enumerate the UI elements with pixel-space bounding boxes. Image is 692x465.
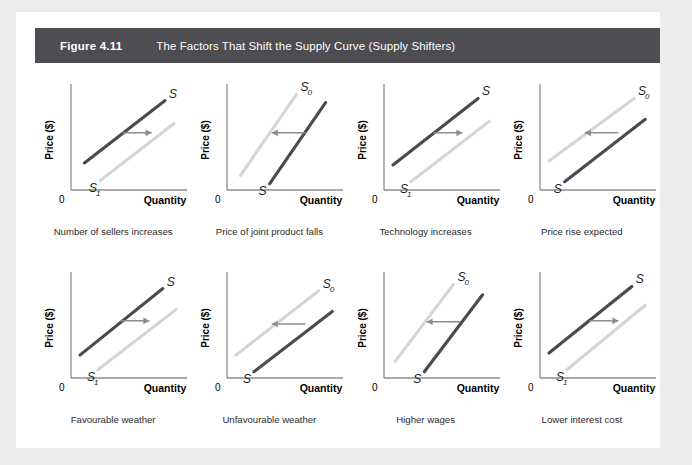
supply-curve-s xyxy=(549,286,632,353)
shift-arrow-left xyxy=(426,318,460,325)
svg-text:0: 0 xyxy=(464,278,469,287)
supply-curve-s0 xyxy=(241,94,297,175)
panel-caption: Number of sellers increases xyxy=(54,226,173,237)
supply-curve-s xyxy=(565,119,646,181)
curve-label-s: S xyxy=(259,184,267,198)
y-axis-label: Price ($) xyxy=(357,308,368,347)
curve-label-s0: S0 xyxy=(301,80,313,97)
svg-text:S: S xyxy=(413,371,421,385)
svg-text:S: S xyxy=(554,182,562,196)
x-axis-label: Quantity xyxy=(300,382,343,394)
panel-caption: Price rise expected xyxy=(541,226,623,237)
origin-label: 0 xyxy=(215,382,221,393)
origin-label: 0 xyxy=(59,382,65,393)
svg-text:0: 0 xyxy=(330,284,335,293)
y-axis-label: Price ($) xyxy=(44,308,55,347)
supply-curve-plot: Price ($)0QuantityS0S xyxy=(193,72,345,220)
curve-label-s0: S0 xyxy=(638,84,650,101)
svg-text:1: 1 xyxy=(563,377,567,386)
origin-label: 0 xyxy=(528,382,534,393)
curve-label-s: S xyxy=(482,84,490,98)
figure-header-bar: Figure 4.11 The Factors That Shift the S… xyxy=(35,28,660,63)
supply-curve-s xyxy=(270,103,326,184)
svg-text:S: S xyxy=(259,184,267,198)
chart-panel: Price ($)0QuantitySS1Lower interest cost xyxy=(504,260,660,448)
y-axis-label: Price ($) xyxy=(44,120,55,159)
svg-text:0: 0 xyxy=(308,88,313,97)
panel-caption: Price of joint product falls xyxy=(216,226,323,237)
svg-text:1: 1 xyxy=(94,377,98,386)
panel-caption: Unfavourable weather xyxy=(222,414,316,425)
y-axis-label: Price ($) xyxy=(357,120,368,159)
supply-curve-plot: Price ($)0QuantitySS1 xyxy=(37,260,189,408)
chart-panel: Price ($)0QuantitySS1Favourable weather xyxy=(35,260,191,448)
supply-curve-s1 xyxy=(100,123,174,180)
curve-label-s0: S0 xyxy=(323,276,335,293)
chart-panel: Price ($)0QuantityS0SHigher wages xyxy=(348,260,504,448)
x-axis-label: Quantity xyxy=(613,382,656,394)
supply-curve-s0 xyxy=(549,98,634,160)
plot-axes xyxy=(227,84,343,190)
y-axis-label: Price ($) xyxy=(513,308,524,347)
chart-panel: Price ($)0QuantityS0SPrice rise expected xyxy=(504,72,660,260)
svg-text:S: S xyxy=(482,84,490,98)
panel-caption: Higher wages xyxy=(396,414,455,425)
x-axis-label: Quantity xyxy=(300,194,343,206)
svg-text:1: 1 xyxy=(407,190,411,199)
chart-panel: Price ($)0QuantitySS1Number of sellers i… xyxy=(35,72,191,260)
supply-curve-s1 xyxy=(98,309,176,369)
x-axis-label: Quantity xyxy=(144,382,187,394)
supply-curve-s1 xyxy=(567,305,645,369)
y-axis-label: Price ($) xyxy=(200,308,211,347)
plot-axes xyxy=(540,272,656,378)
curve-label-s: S xyxy=(413,371,421,385)
origin-label: 0 xyxy=(372,382,378,393)
supply-curve-s xyxy=(424,294,482,371)
origin-label: 0 xyxy=(528,194,534,205)
chart-grid: Price ($)0QuantitySS1Number of sellers i… xyxy=(35,72,660,447)
supply-curve-plot: Price ($)0QuantitySS1 xyxy=(506,260,658,408)
shift-arrow-left xyxy=(272,320,306,327)
svg-text:S: S xyxy=(243,371,251,385)
plot-axes xyxy=(384,272,500,378)
supply-curve-s xyxy=(393,98,478,165)
curve-label-s1: S1 xyxy=(87,369,98,386)
supply-curve-plot: Price ($)0QuantitySS1 xyxy=(37,72,189,220)
plot-axes xyxy=(384,84,500,190)
supply-curve-s xyxy=(254,311,332,371)
supply-curve-plot: Price ($)0QuantityS0S xyxy=(506,72,658,220)
curve-label-s: S xyxy=(554,182,562,196)
supply-curve-s0 xyxy=(395,284,453,361)
supply-curve-s xyxy=(85,101,166,163)
curve-label-s1: S1 xyxy=(89,181,100,198)
origin-label: 0 xyxy=(215,194,221,205)
curve-label-s: S xyxy=(636,272,644,286)
shift-arrow-left xyxy=(585,129,619,136)
panel-caption: Technology increases xyxy=(379,226,471,237)
svg-text:S: S xyxy=(169,87,177,101)
curve-label-s: S xyxy=(169,87,177,101)
x-axis-label: Quantity xyxy=(144,194,187,206)
panel-caption: Lower interest cost xyxy=(542,414,623,425)
x-axis-label: Quantity xyxy=(613,194,656,206)
y-axis-label: Price ($) xyxy=(200,120,211,159)
shift-arrow-left xyxy=(272,129,306,136)
svg-text:1: 1 xyxy=(96,189,100,198)
origin-label: 0 xyxy=(59,194,65,205)
chart-panel: Price ($)0QuantitySS1Technology increase… xyxy=(348,72,504,260)
chart-panel: Price ($)0QuantityS0SPrice of joint prod… xyxy=(191,72,347,260)
supply-curve-plot: Price ($)0QuantitySS1 xyxy=(350,72,502,220)
svg-text:S: S xyxy=(167,274,175,288)
figure-title: The Factors That Shift the Supply Curve … xyxy=(156,40,455,52)
x-axis-label: Quantity xyxy=(456,382,499,394)
curve-label-s1: S1 xyxy=(400,182,411,199)
y-axis-label: Price ($) xyxy=(513,120,524,159)
curve-label-s: S xyxy=(243,371,251,385)
origin-label: 0 xyxy=(372,194,378,205)
plot-axes xyxy=(540,84,656,190)
curve-label-s0: S0 xyxy=(457,270,469,287)
chart-panel: Price ($)0QuantityS0SUnfavourable weathe… xyxy=(191,260,347,448)
figure-number: Figure 4.11 xyxy=(60,40,122,52)
svg-text:0: 0 xyxy=(645,92,650,101)
figure-card: Figure 4.11 The Factors That Shift the S… xyxy=(16,12,660,448)
